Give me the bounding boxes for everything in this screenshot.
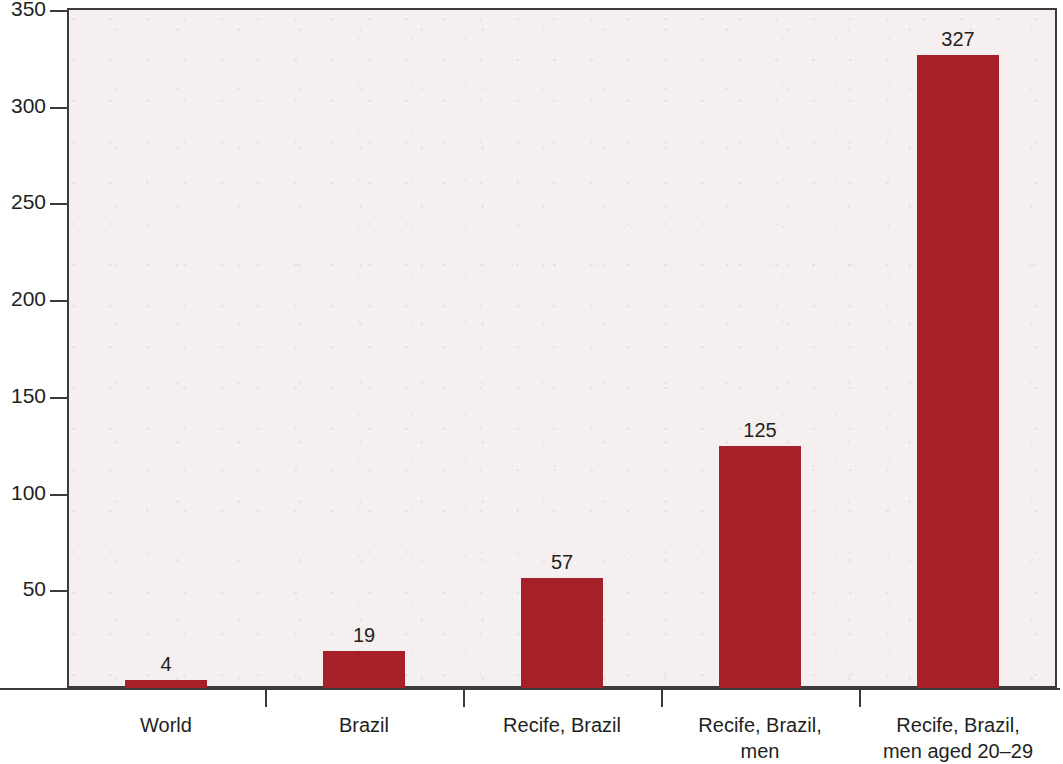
y-axis-tick-label: 50 [0,577,46,601]
y-axis-tick [50,397,67,399]
bar [521,578,603,688]
y-axis-tick [50,10,67,12]
y-axis-tick [50,590,67,592]
y-axis-tick-label: 300 [0,94,46,118]
y-axis-tick-label: 250 [0,190,46,214]
y-axis-tick-label: 150 [0,384,46,408]
y-axis-tick-label: 100 [0,481,46,505]
bar-value-label: 57 [502,551,622,574]
x-axis-category-label: Recife, Brazil,men [661,712,859,764]
x-axis-category-label-line: men aged 20–29 [859,738,1057,764]
y-axis-tick [50,203,67,205]
x-axis-tick [463,690,465,707]
bar [719,446,801,688]
y-axis-tick-label: 200 [0,287,46,311]
x-axis-category-label-line: men [661,738,859,764]
x-axis-category-label-line: Recife, Brazil, [661,712,859,738]
bar [125,680,207,688]
y-axis-tick [50,107,67,109]
x-axis-category-label-line: Recife, Brazil [463,712,661,738]
bar-value-label: 125 [700,419,820,442]
y-axis-tick [50,494,67,496]
x-axis-category-label: Brazil [265,712,463,738]
y-axis-tick [50,300,67,302]
x-axis-tick [859,690,861,707]
x-axis-category-label-line: World [67,712,265,738]
x-axis-tick [661,690,663,707]
x-axis-tick [265,690,267,707]
x-axis-baseline [0,688,1060,690]
bar-chart-figure: 50100150200250300350 41957125327 WorldBr… [0,0,1063,764]
x-axis-category-label: Recife, Brazil [463,712,661,738]
x-axis-category-label-line: Brazil [265,712,463,738]
y-axis-tick-label: 350 [0,0,46,21]
bar [323,651,405,688]
bar-value-label: 4 [106,653,226,676]
x-axis-category-label-line: Recife, Brazil, [859,712,1057,738]
x-axis-category-label: World [67,712,265,738]
x-axis-category-label: Recife, Brazil,men aged 20–29 [859,712,1057,764]
bar-value-label: 19 [304,624,424,647]
bar-value-label: 327 [898,28,1018,51]
bar [917,55,999,688]
